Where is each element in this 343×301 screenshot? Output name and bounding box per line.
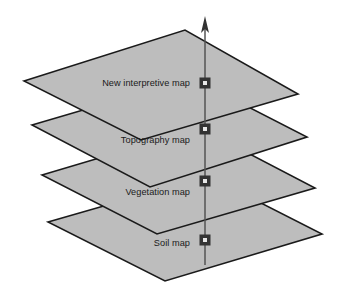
location-marker-soil-map[interactable] [200, 235, 211, 246]
layer-stack-diagram: New interpretive map Topography map Vege… [0, 0, 343, 301]
location-marker-new-interpretive-map[interactable] [200, 78, 211, 89]
layer-label-soil-map: Soil map [154, 238, 190, 248]
layer-label-vegetation-map: Vegetation map [125, 187, 190, 197]
location-marker-vegetation-map[interactable] [200, 176, 211, 187]
diagram-canvas [0, 0, 343, 301]
layer-label-new-interpretive-map: New interpretive map [102, 78, 190, 88]
layer-label-topography-map: Topography map [121, 135, 190, 145]
location-marker-topography-map[interactable] [200, 124, 211, 135]
